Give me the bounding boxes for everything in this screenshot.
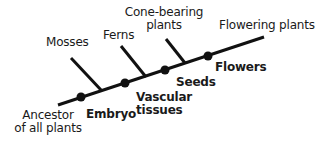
branch-mosses — [71, 58, 102, 91]
group-label-mosses: Mosses — [46, 36, 89, 49]
trait-node-flowers — [204, 52, 213, 61]
trait-label-vascular-line2: tissues — [136, 104, 192, 117]
branch-ferns — [121, 46, 146, 77]
group-label-cone-bearing: Cone-bearing plants — [124, 6, 204, 32]
trait-node-embryo — [77, 93, 86, 102]
branch-cone-bearing — [166, 39, 185, 63]
trait-label-flowers: Flowers — [215, 61, 266, 74]
root-label-ancestor: Ancestor of all plants — [12, 109, 84, 135]
root-label-line2: of all plants — [12, 122, 84, 135]
trait-label-vascular-tissues: Vascular tissues — [136, 91, 192, 117]
group-label-cone-bearing-line2: plants — [124, 19, 204, 32]
trait-node-vascular — [121, 79, 130, 88]
trait-node-seeds — [161, 66, 170, 75]
trait-label-seeds: Seeds — [176, 76, 216, 89]
trait-label-embryo: Embryo — [86, 108, 136, 121]
group-label-flowering-plants: Flowering plants — [219, 19, 315, 32]
